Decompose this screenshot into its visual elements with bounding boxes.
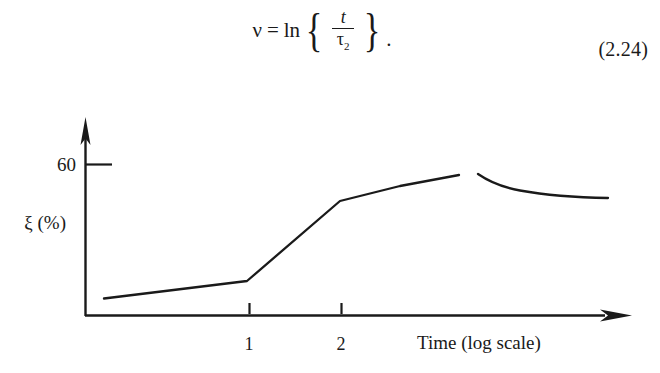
equation-left-brace: { [305, 14, 323, 47]
x-tick-label-2: 2 [337, 334, 346, 354]
equation-denominator-tau: τ2 [337, 29, 350, 52]
equation-variable-nu: ν [252, 20, 262, 41]
equation-denominator-tau-symbol: τ [337, 29, 344, 49]
equation-terminator: . [386, 29, 391, 52]
figure-chart: 60 ξ (%) 1 2 Time (log scale) [0, 95, 660, 373]
y-axis-label: ξ (%) [24, 212, 66, 234]
x-tick-label-1: 1 [245, 334, 254, 354]
display-equation: ν = ln { t τ2 } . [0, 8, 660, 52]
equation-numerator-t: t [341, 8, 346, 28]
data-line-rise [104, 175, 459, 299]
equation-equals-sign: = [264, 20, 282, 41]
equation-number: (2.24) [598, 38, 648, 61]
equation-fraction: t τ2 [328, 8, 358, 52]
equation-ln-function: ln [284, 20, 300, 41]
equation-denominator-subscript: 2 [344, 40, 350, 52]
equation-right-brace: } [363, 14, 381, 47]
y-tick-label-60: 60 [57, 154, 76, 175]
equation-expression: ν = ln { t τ2 } . [252, 8, 391, 52]
chart-svg: 60 ξ (%) 1 2 Time (log scale) [0, 95, 660, 373]
x-axis-label: Time (log scale) [417, 332, 541, 354]
equation-row: ν = ln { t τ2 } . (2.24) [0, 8, 660, 88]
data-line-decay [478, 174, 608, 198]
